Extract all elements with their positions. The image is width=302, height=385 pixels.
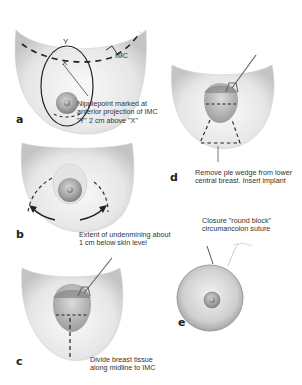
surgical-diagram-figure: Y X IMC a Nipplepoint marked at anterior… [0,0,302,385]
label-imc: IMC [115,52,128,59]
panel-letter-b: b [16,228,24,241]
label-y: Y [63,37,68,46]
panel-c-drawing [22,258,123,361]
caption-c-line-2: along midline to IMC [90,364,156,372]
caption-c: Divide breast tissue along midline to IM… [90,356,156,373]
panel-d-drawing [171,55,274,162]
diagram-artwork [0,0,302,385]
panel-letter-d: d [170,171,178,184]
caption-a-line-3: "Y" 2 cm above "X" [77,117,158,125]
panel-b-drawing [21,143,134,232]
caption-b: Extent of undenmining about 1 cm below s… [79,231,171,248]
panel-e-drawing [177,244,252,331]
caption-d: Remove pie wedge from lower central brea… [195,169,292,186]
caption-a: Nipplepoint marked at anterior projectio… [77,100,158,125]
caption-d-line-2: central breast. Insert implant [195,177,292,185]
panel-letter-c: c [16,355,23,368]
caption-b-line-2: 1 cm below skin level [79,239,171,247]
panel-letter-e: e [178,316,185,329]
label-x: X [62,58,67,67]
caption-e-line-2: circumancolon suture [202,225,271,233]
caption-e: Closure "round block" circumancolon sutu… [202,217,271,234]
panel-letter-a: a [16,113,23,126]
